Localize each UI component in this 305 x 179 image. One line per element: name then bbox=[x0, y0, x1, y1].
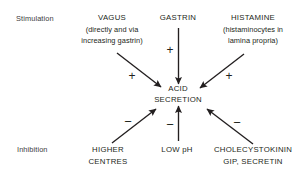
arrow-vagus-to-acid bbox=[117, 53, 161, 87]
node-vagus-title: VAGUS bbox=[98, 13, 126, 24]
node-histamine-subtitle-line2: lamina propria) bbox=[228, 36, 278, 47]
row-label-stimulation: Stimulation bbox=[16, 14, 54, 25]
node-vagus-subtitle-line2: increasing gastrin) bbox=[81, 36, 142, 47]
node-cholecystokinin-title: CHOLECYSTOKININ bbox=[214, 145, 292, 156]
sign-plus-vagus: + bbox=[128, 70, 135, 82]
node-acid-secretion-line2: SECRETION bbox=[154, 95, 202, 106]
node-higher-centres-line2: CENTRES bbox=[88, 157, 127, 168]
node-gastrin-title: GASTRIN bbox=[160, 13, 196, 24]
node-histamine-title: HISTAMINE bbox=[231, 13, 275, 24]
node-cholecystokinin-line2: GIP, SECRETIN bbox=[223, 157, 282, 168]
node-low-ph-title: LOW pH bbox=[161, 145, 192, 156]
arrow-higher-centres-to-acid bbox=[112, 109, 156, 143]
sign-minus-cholecystokinin: − bbox=[233, 117, 241, 129]
sign-minus-low-ph: − bbox=[166, 119, 174, 131]
node-vagus-subtitle-line1: (directly and via bbox=[86, 25, 139, 36]
sign-plus-gastrin: + bbox=[166, 44, 173, 56]
sign-minus-higher-centres: − bbox=[124, 116, 132, 128]
node-acid-secretion-line1: ACID bbox=[168, 84, 188, 95]
acid-secretion-diagram: Stimulation Inhibition VAGUS (directly a… bbox=[0, 0, 305, 179]
row-label-inhibition: Inhibition bbox=[17, 145, 48, 156]
sign-plus-histamine: + bbox=[225, 70, 232, 82]
node-higher-centres-title: HIGHER bbox=[92, 145, 124, 156]
arrow-cholecystokinin-to-acid bbox=[207, 109, 253, 144]
node-histamine-subtitle-line1: (histaminocytes in bbox=[223, 25, 283, 36]
arrow-histamine-to-acid bbox=[200, 54, 244, 88]
